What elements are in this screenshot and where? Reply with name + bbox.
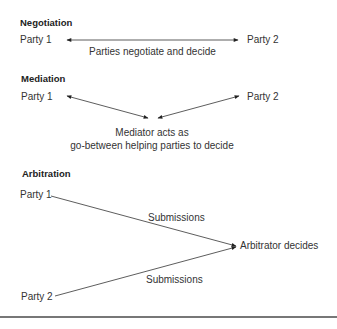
arbitration-title: Arbitration — [22, 168, 71, 180]
mediation-party-2: Party 2 — [247, 91, 279, 103]
mediation-title: Mediation — [21, 73, 65, 85]
arbitration-outcome: Arbitrator decides — [240, 240, 318, 252]
mediation-party-1: Party 1 — [21, 91, 53, 103]
bottom-rule — [0, 316, 337, 318]
mediation-caption-line-1: Mediator acts as — [52, 127, 252, 139]
mediation-arrow-left — [67, 96, 148, 118]
mediation-caption-line-2: go-between helping parties to decide — [52, 140, 252, 152]
arbitration-submissions-bottom: Submissions — [146, 274, 203, 286]
arbitration-arrow-bottom — [55, 247, 236, 296]
arbitration-party-1: Party 1 — [20, 189, 52, 201]
arbitration-submissions-top: Submissions — [148, 212, 205, 224]
negotiation-party-1: Party 1 — [20, 34, 52, 46]
negotiation-party-2: Party 2 — [247, 34, 279, 46]
arbitration-arrow-top — [51, 196, 236, 246]
mediation-arrow-right — [158, 96, 239, 118]
negotiation-title: Negotiation — [20, 17, 72, 29]
arbitration-party-2: Party 2 — [21, 291, 53, 303]
negotiation-caption: Parties negotiate and decide — [89, 46, 216, 58]
